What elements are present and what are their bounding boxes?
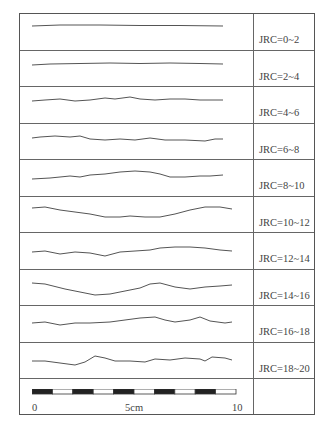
- profile-curve-cell: [20, 124, 254, 160]
- jrc-label-cell: JRC=14~16: [254, 270, 314, 306]
- jrc-label: JRC=6~8: [259, 144, 299, 155]
- roughness-profile-line: [20, 343, 254, 379]
- jrc-label: JRC=18~20: [259, 363, 310, 374]
- roughness-profile-line: [20, 197, 254, 233]
- jrc-label-cell: JRC=2~4: [254, 51, 314, 87]
- jrc-label-cell: JRC=8~10: [254, 160, 314, 196]
- profile-curve-cell: [20, 233, 254, 269]
- profile-row: JRC=10~12: [20, 197, 314, 234]
- jrc-label: JRC=12~14: [259, 253, 310, 264]
- jrc-label: JRC=0~2: [259, 34, 299, 45]
- profile-curve-cell: [20, 270, 254, 306]
- profile-row: JRC=18~20: [20, 343, 314, 380]
- scale-tick-0: 0: [32, 402, 37, 413]
- roughness-profile-line: [20, 233, 254, 269]
- jrc-profile-table: JRC=0~2JRC=2~4JRC=4~6JRC=6~8JRC=8~10JRC=…: [19, 13, 315, 415]
- jrc-label: JRC=10~12: [259, 217, 310, 228]
- profile-row: JRC=2~4: [20, 51, 314, 88]
- profile-row: JRC=14~16: [20, 270, 314, 307]
- profile-curve-cell: [20, 306, 254, 342]
- roughness-profile-line: [20, 51, 254, 87]
- roughness-profile-line: [20, 270, 254, 306]
- roughness-profile-line: [20, 14, 254, 50]
- jrc-label: JRC=16~18: [259, 326, 310, 337]
- profile-curve-cell: [20, 87, 254, 123]
- profile-row: JRC=16~18: [20, 306, 314, 343]
- profile-row: JRC=12~14: [20, 233, 314, 270]
- jrc-label-cell: JRC=4~6: [254, 87, 314, 123]
- jrc-label: JRC=8~10: [259, 180, 304, 191]
- jrc-label-cell: JRC=18~20: [254, 343, 314, 379]
- profile-curve-cell: [20, 51, 254, 87]
- jrc-label-cell: JRC=0~2: [254, 14, 314, 50]
- roughness-profile-line: [20, 306, 254, 342]
- roughness-profile-line: [20, 87, 254, 123]
- jrc-label: JRC=2~4: [259, 71, 299, 82]
- jrc-label-cell: JRC=6~8: [254, 124, 314, 160]
- profile-row: JRC=8~10: [20, 160, 314, 197]
- scale-bar-cell: 05cm10: [20, 379, 254, 414]
- profile-row: JRC=0~2: [20, 14, 314, 51]
- roughness-profile-line: [20, 160, 254, 196]
- scale-bar-row: 05cm10: [20, 379, 314, 414]
- profile-curve-cell: [20, 160, 254, 196]
- profile-curve-cell: [20, 343, 254, 379]
- jrc-label: JRC=14~16: [259, 290, 310, 301]
- profile-row: JRC=6~8: [20, 124, 314, 161]
- profile-curve-cell: [20, 197, 254, 233]
- scale-tick-10: 10: [232, 402, 243, 413]
- jrc-label-cell: JRC=12~14: [254, 233, 314, 269]
- empty-label-cell: [254, 379, 314, 414]
- jrc-label: JRC=4~6: [259, 107, 299, 118]
- profile-row: JRC=4~6: [20, 87, 314, 124]
- jrc-label-cell: JRC=16~18: [254, 306, 314, 342]
- scale-bar: [32, 389, 242, 397]
- scale-tick-5cm: 5cm: [125, 402, 143, 413]
- jrc-label-cell: JRC=10~12: [254, 197, 314, 233]
- profile-curve-cell: [20, 14, 254, 50]
- roughness-profile-line: [20, 124, 254, 160]
